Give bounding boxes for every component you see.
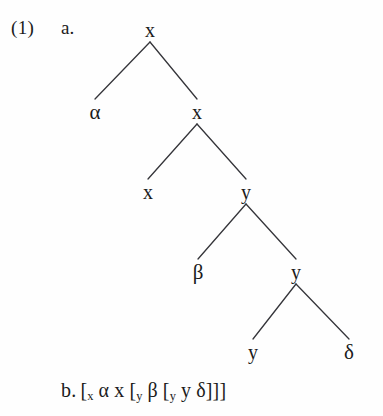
bracket-segment-1: α [98, 379, 109, 402]
tree-node-n1: α [89, 102, 100, 123]
tree-node-n7: y [248, 342, 258, 362]
bracket-notation-parts: [xαx[yβ[yyδ]]] [80, 379, 226, 401]
tree-node-n8: δ [344, 342, 354, 363]
tree-node-n0: x [145, 20, 155, 40]
tree-node-n6: y [291, 262, 301, 282]
bracket-subscript-0: x [87, 389, 93, 403]
bracket-segment-2: x [114, 379, 124, 402]
bracket-segment-5: [y [163, 379, 176, 402]
sub-example-label-b: b. [61, 379, 76, 401]
bracket-segment-6: y [181, 379, 191, 402]
bracket-segment-7: δ]]] [196, 379, 226, 402]
bracket-segment-4: β [147, 379, 157, 402]
bracket-segment-0: [x [80, 379, 93, 402]
tree-node-n3: x [143, 182, 153, 202]
bracket-subscript-3: y [136, 389, 142, 403]
tree-node-n4: y [241, 182, 251, 202]
bracket-subscript-5: y [170, 389, 176, 403]
tree-node-n5: β [193, 262, 204, 283]
syntax-tree-nodes: xαxxyβyyδ [0, 0, 383, 416]
bracket-notation-line: b.[xαx[yβ[yyδ]]] [61, 379, 226, 402]
bracket-segment-3: [y [129, 379, 142, 402]
example-figure: (1) a. xαxxyβyyδ b.[xαx[yβ[yyδ]]] [0, 0, 383, 416]
tree-node-n2: x [192, 102, 202, 122]
